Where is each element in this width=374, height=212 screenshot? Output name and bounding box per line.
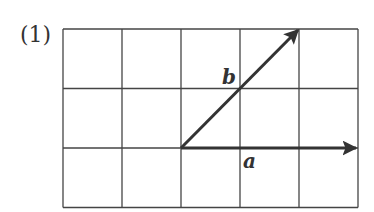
vector-grid-diagram: ab — [0, 0, 374, 212]
vector-label-a: a — [243, 149, 256, 173]
vectors: ab — [181, 30, 356, 173]
vector-label-b: b — [222, 65, 236, 89]
